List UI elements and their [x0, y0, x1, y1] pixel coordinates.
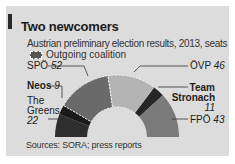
label-greens-value: 22 [26, 115, 39, 126]
label-ovp: ÖVP 46 [190, 60, 225, 71]
chart-source: Sources: SORA; press reports [26, 140, 141, 150]
label-neos: Neos 9 [27, 80, 60, 91]
label-stronach-value: 11 [205, 102, 215, 113]
label-spo: SPÖ 52 [27, 60, 62, 71]
label-fpo: FPÖ 43 [190, 114, 225, 125]
leader-ovp [134, 66, 188, 72]
